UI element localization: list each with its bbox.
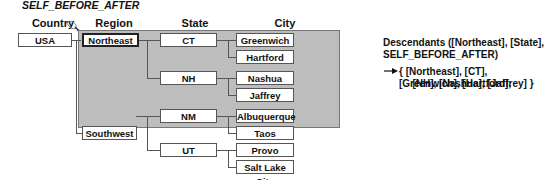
header-state: State — [165, 17, 225, 29]
node-city-jaffrey: Jaffrey — [236, 88, 294, 102]
node-region-northeast: Northeast — [82, 33, 139, 47]
node-city-nashua: Nashua — [236, 71, 294, 85]
connector — [76, 40, 77, 133]
diagram-title: SELF_BEFORE_AFTER — [22, 0, 139, 11]
connector — [228, 150, 229, 167]
connector — [147, 116, 148, 150]
connector — [147, 40, 148, 78]
connector — [139, 40, 161, 41]
node-country-usa: USA — [18, 33, 72, 47]
expression-line-2: SELF_BEFORE_AFTER) — [383, 49, 498, 61]
connector — [228, 167, 236, 168]
connector — [216, 40, 236, 41]
connector — [228, 40, 229, 57]
node-state-nm: NM — [160, 109, 217, 123]
node-city-hartford: Hartford — [236, 50, 294, 64]
node-city-taos: Taos — [236, 126, 294, 140]
node-city-salt-lake-city: Salt Lake City — [236, 160, 294, 174]
result-line-2: [NH], [Nashua], [Jaffrey] } — [400, 78, 546, 90]
node-state-nh: NH — [160, 71, 217, 85]
header-region: Region — [84, 17, 144, 29]
node-region-southwest: Southwest — [82, 126, 137, 140]
expression-line-1: Descendants ([Northeast], [State], — [383, 37, 544, 49]
header-city: City — [255, 17, 315, 29]
connector — [228, 116, 229, 133]
connector — [216, 78, 236, 79]
connector — [228, 57, 236, 58]
result-arrow-icon — [383, 67, 399, 75]
connector — [216, 150, 236, 151]
connector — [228, 95, 236, 96]
node-city-albuquerque: Albuquerque — [236, 109, 294, 123]
connector — [228, 133, 236, 134]
connector — [216, 116, 236, 117]
connector — [228, 78, 229, 95]
connector — [136, 116, 161, 117]
node-state-ut: UT — [160, 143, 217, 157]
node-city-greenwich: Greenwich — [236, 33, 294, 47]
connector — [147, 150, 161, 151]
node-city-provo: Provo — [236, 143, 294, 157]
connector — [147, 78, 161, 79]
node-state-ct: CT — [160, 33, 217, 47]
